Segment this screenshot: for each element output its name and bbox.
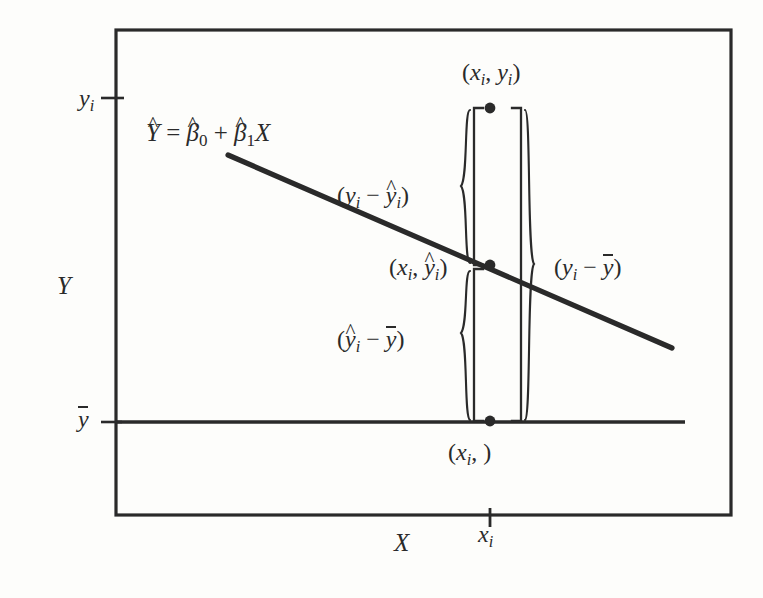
unexplained-deviation-bracket xyxy=(474,108,483,265)
hat-accent-yhat-mid: ^ xyxy=(425,249,435,270)
hat-accent-Y: ^ xyxy=(148,113,158,135)
unexplained-deviation-brace xyxy=(461,110,470,263)
fitted-point-label: (xi, ^yi) xyxy=(389,255,447,283)
overline-accent-ybar-expl xyxy=(386,326,396,328)
fitted-point-marker xyxy=(485,260,496,271)
x-axis-label: X xyxy=(394,530,409,555)
hat-accent-yhat-resid: ^ xyxy=(386,177,396,198)
x-tick-label-xi: xi xyxy=(478,522,493,550)
regression-line xyxy=(228,155,672,348)
unexplained-deviation-label: (yi − ^yi) xyxy=(337,183,409,211)
total-deviation-bracket xyxy=(512,108,521,421)
explained-deviation-label: (^yi − y) xyxy=(337,327,404,355)
explained-deviation-brace xyxy=(461,271,470,420)
fitted-regression-equation: ^Y = ^β0 + ^β1X xyxy=(146,120,270,149)
observed-point-marker xyxy=(485,103,496,114)
mean-point-label: (xi, ) xyxy=(448,440,491,468)
diagram-canvas xyxy=(0,0,763,598)
regression-decomposition-figure: ^Y = ^β0 + ^β1X yi y Y X xi (xi, yi) (xi… xyxy=(0,0,763,598)
hat-accent-yhat-expl: ^ xyxy=(345,321,355,342)
y-tick-label-yi: yi xyxy=(79,86,94,114)
overline-accent-ybar-total xyxy=(603,254,613,256)
total-deviation-label: (yi − y) xyxy=(554,255,621,283)
mean-point-marker xyxy=(485,416,496,427)
y-tick-label-ybar: y xyxy=(78,407,89,431)
hat-accent-beta0: ^ xyxy=(188,113,198,135)
explained-deviation-bracket xyxy=(474,269,483,421)
total-deviation-brace xyxy=(525,110,534,420)
hat-accent-beta1: ^ xyxy=(235,113,245,135)
overline-accent-ybar-tick xyxy=(78,406,88,408)
y-axis-label: Y xyxy=(57,273,71,298)
observed-point-label: (xi, yi) xyxy=(462,60,520,88)
